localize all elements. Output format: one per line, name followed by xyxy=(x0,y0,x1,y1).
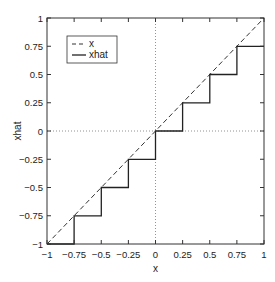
y-tick-label: −0.75 xyxy=(19,210,43,221)
x-tick-labels: −1−0.75−0.5−0.2500.250.50.751 xyxy=(42,249,267,260)
quantizer-chart: −1−0.75−0.5−0.2500.250.50.751 −1−0.75−0.… xyxy=(0,0,275,282)
x-tick-label: −0.25 xyxy=(116,249,140,260)
y-tick-label: −1 xyxy=(32,239,43,250)
y-tick-label: 0.75 xyxy=(25,41,44,52)
y-tick-label: 0.25 xyxy=(25,97,44,108)
x-axis-label: x xyxy=(153,263,158,274)
x-tick-label: −0.5 xyxy=(92,249,111,260)
y-tick-label: 1 xyxy=(38,13,43,24)
y-tick-label: −0.25 xyxy=(19,154,43,165)
legend: x xhat xyxy=(67,36,117,63)
x-tick-label: 0 xyxy=(153,249,158,260)
y-tick-label: 0 xyxy=(38,126,43,137)
x-tick-label: −1 xyxy=(42,249,53,260)
x-tick-label: 1 xyxy=(261,249,266,260)
y-tick-label: −0.5 xyxy=(24,182,43,193)
x-tick-label: 0.25 xyxy=(173,249,192,260)
x-tick-label: 0.75 xyxy=(228,249,247,260)
legend-label-x: x xyxy=(89,38,94,49)
legend-label-xhat: xhat xyxy=(89,49,108,60)
y-tick-label: 0.5 xyxy=(30,69,43,80)
x-tick-label: −0.75 xyxy=(62,249,86,260)
x-tick-label: 0.5 xyxy=(203,249,216,260)
y-axis-label: xhat xyxy=(12,121,23,140)
